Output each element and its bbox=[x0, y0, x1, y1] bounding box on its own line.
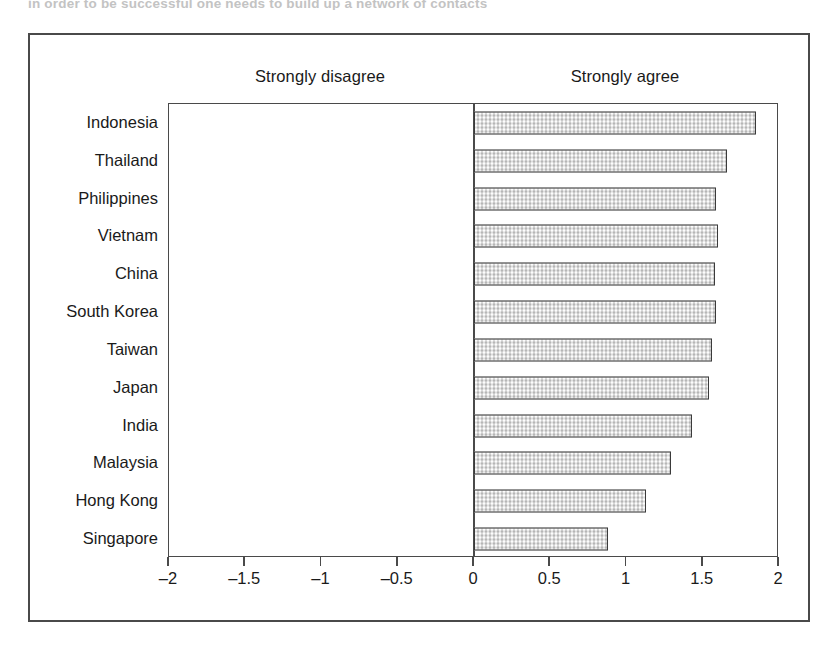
bar-row bbox=[169, 218, 777, 256]
x-tick-label: –1.5 bbox=[228, 569, 260, 588]
category-label-malaysia: Malaysia bbox=[93, 453, 158, 472]
bar-row bbox=[169, 293, 777, 331]
x-tick-mark bbox=[548, 557, 550, 566]
category-label-indonesia: Indonesia bbox=[86, 112, 158, 131]
bar-row bbox=[169, 520, 777, 558]
x-tick-label: 1.5 bbox=[690, 569, 713, 588]
x-tick-mark bbox=[777, 557, 779, 566]
x-tick-mark bbox=[472, 557, 474, 566]
bar-row bbox=[169, 104, 777, 142]
bar-singapore bbox=[474, 528, 608, 551]
x-tick-label: 0 bbox=[468, 569, 477, 588]
x-tick-label: 0.5 bbox=[538, 569, 561, 588]
bar-vietnam bbox=[474, 225, 718, 248]
anchor-label-agree: Strongly agree bbox=[571, 67, 680, 86]
category-label-philippines: Philippines bbox=[78, 188, 158, 207]
x-tick-mark bbox=[396, 557, 398, 566]
bar-row bbox=[169, 407, 777, 445]
cut-off-caption: in order to be successful one needs to b… bbox=[28, 0, 728, 10]
bar-china bbox=[474, 263, 715, 286]
bar-taiwan bbox=[474, 338, 712, 361]
x-tick-mark bbox=[243, 557, 245, 566]
plot-area bbox=[168, 103, 778, 557]
bar-thailand bbox=[474, 149, 727, 172]
x-tick-label: –1 bbox=[311, 569, 329, 588]
category-axis-labels: IndonesiaThailandPhilippinesVietnamChina… bbox=[0, 103, 158, 557]
category-label-japan: Japan bbox=[113, 377, 158, 396]
x-tick-label: 2 bbox=[773, 569, 782, 588]
x-tick-mark bbox=[625, 557, 627, 566]
bar-row bbox=[169, 369, 777, 407]
bar-indonesia bbox=[474, 111, 756, 134]
bar-row bbox=[169, 180, 777, 218]
category-label-taiwan: Taiwan bbox=[107, 339, 158, 358]
x-tick-mark bbox=[167, 557, 169, 566]
category-label-india: India bbox=[122, 415, 158, 434]
value-axis: –2–1.5–1–0.500.511.52 bbox=[168, 557, 778, 607]
category-label-vietnam: Vietnam bbox=[98, 226, 158, 245]
x-tick-mark bbox=[320, 557, 322, 566]
x-tick-label: 1 bbox=[621, 569, 630, 588]
category-label-china: China bbox=[115, 264, 158, 283]
bar-row bbox=[169, 331, 777, 369]
bar-south-korea bbox=[474, 301, 716, 324]
x-tick-label: –2 bbox=[159, 569, 177, 588]
category-label-south-korea: South Korea bbox=[66, 302, 158, 321]
category-label-thailand: Thailand bbox=[95, 150, 158, 169]
x-tick-label: –0.5 bbox=[381, 569, 413, 588]
category-label-singapore: Singapore bbox=[83, 529, 158, 548]
bar-row bbox=[169, 445, 777, 483]
bar-philippines bbox=[474, 187, 716, 210]
bar-japan bbox=[474, 376, 709, 399]
category-label-hong-kong: Hong Kong bbox=[75, 491, 158, 510]
bar-row bbox=[169, 142, 777, 180]
x-tick-mark bbox=[701, 557, 703, 566]
bar-row bbox=[169, 482, 777, 520]
bar-malaysia bbox=[474, 452, 671, 475]
bar-hong-kong bbox=[474, 490, 646, 513]
bar-india bbox=[474, 414, 692, 437]
bar-row bbox=[169, 255, 777, 293]
anchor-label-disagree: Strongly disagree bbox=[255, 67, 385, 86]
